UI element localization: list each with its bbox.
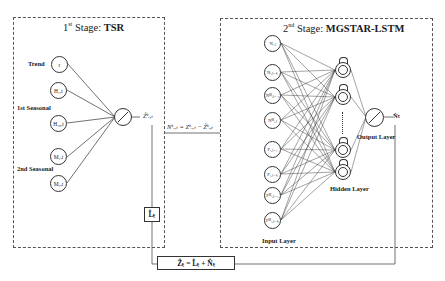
lstm-hidden-node (335, 142, 351, 158)
linear-activation-icon (115, 109, 131, 125)
lstm-hidden-node (335, 89, 351, 105)
seasonal2-node-first: M₁,t (50, 148, 67, 165)
input-node: Fᵢ,ₜ₋ₖ (264, 166, 281, 183)
recurrent-loop-icon (339, 84, 348, 91)
stage1-output-neuron (114, 108, 132, 126)
recurrent-loop-icon (339, 137, 348, 144)
input-node: Nᴹᵢ,ₜ₋₁ (264, 87, 281, 104)
seasonal1-node-last: H₄₈,t (50, 115, 67, 132)
input-node: Fᵢ,ₜ₋₁ (264, 141, 281, 158)
output-layer-label: Output Layer (357, 133, 395, 140)
stage2-title: 2nd Stage: MGSTAR-LSTM (283, 22, 404, 34)
stage2-box (220, 18, 433, 248)
hidden-layer-label: Hidden Layer (330, 185, 369, 192)
seasonal2-node-last: M₇,t (50, 175, 67, 192)
input-layer-label: Input Layer (262, 237, 296, 244)
stage1-output-symbol: Ẑᵏᵢ,ₜ (143, 112, 153, 120)
stage2-output-symbol: N̂ₜ (393, 112, 400, 120)
input-node: Nᴹᵢ,ₜ (264, 112, 281, 129)
seasonal2-label: 2nd Seasonal (17, 165, 53, 172)
stage2-output-neuron (365, 108, 384, 127)
recurrent-loop-icon (339, 159, 348, 166)
stage2-title-bold: MGSTAR-LSTM (326, 23, 405, 34)
stage2-title-mid: Stage: (294, 23, 326, 34)
trend-label: Trend (28, 60, 45, 67)
seasonal1-label: 1st Seasonal (17, 104, 51, 111)
recurrent-loop-icon (339, 57, 348, 64)
lstm-cell-icon (338, 92, 348, 102)
input-node: Fᴹᵢ,ₜ₋₁ (264, 187, 281, 204)
residual-equation: Nᵏᵢ,ₜ = Zᵏᵢ,ₜ − Ẑᵏᵢ,ₜ (167, 123, 213, 131)
trend-node: r (51, 56, 68, 73)
stage1-title-mid: Stage: (72, 22, 104, 33)
lstm-hidden-node (335, 164, 351, 180)
lstm-cell-icon (338, 65, 348, 75)
stage1-title: 1st Stage: TSR (63, 21, 124, 33)
lstm-hidden-node (335, 62, 351, 78)
input-node: Nᵢ,ₜ₋ₖ (264, 64, 281, 81)
input-node: Nᵢ,ₜ (264, 35, 281, 52)
stage1-title-bold: TSR (104, 22, 124, 33)
lstm-cell-icon (338, 145, 348, 155)
final-equation-box: Ẑₜ = L̂ₜ + N̂ₜ (157, 256, 235, 270)
ellipsis-dots (342, 112, 344, 134)
seasonal1-node-first: H₁,t (50, 82, 67, 99)
lstm-cell-icon (338, 167, 348, 177)
input-node: Fᴹᵢ,ₜ₋ₖ (264, 212, 281, 229)
linear-activation-icon (366, 109, 383, 126)
l-hat-box: L̂ₜ (144, 207, 160, 222)
stage1-box (13, 17, 165, 248)
